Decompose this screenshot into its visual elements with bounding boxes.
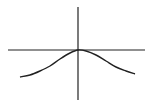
graph-canvas <box>0 0 157 102</box>
